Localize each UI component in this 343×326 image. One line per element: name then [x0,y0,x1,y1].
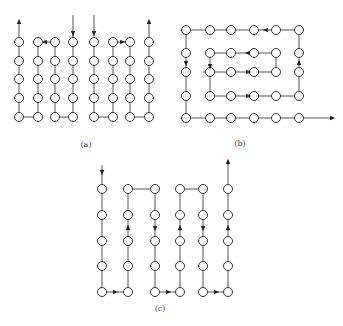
arrow-down-icon [201,226,205,231]
arrow-down-icon [100,170,104,175]
grid-node [224,237,233,246]
grid-node [272,114,281,123]
grid-node [250,114,259,123]
grid-node [126,75,135,84]
grid-node [272,92,281,101]
grid-node [206,49,215,58]
grid-node [224,185,233,194]
grid-node [109,94,118,103]
grid-node [250,49,259,58]
grid-node [272,49,281,58]
grid-node [151,237,160,246]
grid-node [176,211,185,220]
grid-node [69,113,78,122]
grid-node [15,57,24,66]
grid-node [151,211,160,220]
grid-node [69,38,78,47]
grid-node [51,57,60,66]
grid-node [98,211,107,220]
grid-node [98,262,107,271]
arrow-up-icon [126,225,130,230]
arrow-left-icon [245,51,250,55]
grid-node [126,113,135,122]
grid-node [51,38,60,47]
grid-node [227,26,236,35]
arrow-up-icon [226,159,230,164]
arrow-up-icon [226,225,230,230]
grid-node [98,185,107,194]
grid-node [295,68,304,77]
grid-node [250,26,259,35]
caption-b: (b) [234,139,245,148]
grid-node [182,26,191,35]
grid-node [206,26,215,35]
arrow-right-icon [113,290,118,294]
grid-node [151,262,160,271]
grid-node [199,211,208,220]
grid-node [199,262,208,271]
grid-node [124,288,133,297]
grid-node [98,288,107,297]
grid-node [295,49,304,58]
grid-node [182,92,191,101]
grid-node [34,94,43,103]
grid-node [90,57,99,66]
arrow-right-icon [120,40,125,44]
grid-node [34,57,43,66]
arrow-up-icon [178,225,182,230]
grid-node [15,94,24,103]
arrow-down-icon [153,226,157,231]
grid-node [295,92,304,101]
grid-node [109,75,118,84]
grid-node [176,262,185,271]
grid-node [124,262,133,271]
arrow-down-icon [92,31,96,36]
grid-node [69,57,78,66]
arrow-left-icon [263,28,268,32]
grid-node [227,92,236,101]
grid-node [126,94,135,103]
grid-node [126,57,135,66]
diagram-b-spiral [182,26,336,123]
grid-node [176,288,185,297]
grid-node [90,94,99,103]
arrow-down-icon [184,61,188,66]
grid-node [15,113,24,122]
grid-node [182,49,191,58]
grid-node [15,75,24,84]
grid-node [34,113,43,122]
grid-node [15,38,24,47]
grid-node [124,237,133,246]
grid-node [224,288,233,297]
grid-node [272,26,281,35]
grid-node [109,57,118,66]
grid-node [34,38,43,47]
arrow-right-icon [214,290,219,294]
arrow-up-icon [147,19,151,24]
arrow-up-icon [297,60,301,65]
grid-node [199,185,208,194]
grid-node [51,75,60,84]
grid-node [98,237,107,246]
arrow-right-icon [330,116,335,120]
grid-node [145,38,154,47]
arrow-down-icon [71,31,75,36]
grid-node [51,113,60,122]
grid-node [182,114,191,123]
grid-node [182,68,191,77]
arrow-right-icon [166,290,171,294]
grid-node [145,94,154,103]
grid-node [109,38,118,47]
grid-node [34,75,43,84]
caption-c: (c) [155,304,166,313]
grid-node [90,113,99,122]
grid-node [295,26,304,35]
grid-node [126,38,135,47]
grid-node [199,288,208,297]
grid-node [206,92,215,101]
grid-node [124,185,133,194]
grid-node [145,75,154,84]
caption-a: (a) [80,140,91,149]
grid-node [176,237,185,246]
grid-node [272,68,281,77]
